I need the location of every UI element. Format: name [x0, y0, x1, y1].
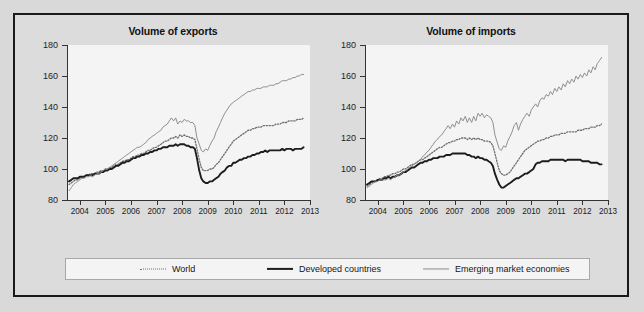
legend-label-emerging-market-economies: Emerging market economies [455, 264, 570, 274]
x-tick-label: 2010 [522, 207, 540, 216]
x-tick [506, 200, 507, 205]
x-tick [233, 200, 234, 205]
x-tick-label: 2009 [497, 207, 515, 216]
x-tick-label: 2013 [301, 207, 319, 216]
y-tick [62, 45, 67, 46]
legend-item-developed-countries[interactable]: Developed countries [267, 259, 381, 279]
x-tick [208, 200, 209, 205]
legend-item-world[interactable]: World [140, 259, 195, 279]
series-lines-imports [365, 45, 608, 200]
y-tick [360, 76, 365, 77]
y-tick-label: 100 [25, 165, 58, 174]
x-tick-label: 2011 [250, 207, 268, 216]
x-tick [403, 200, 404, 205]
y-tick-label: 160 [25, 72, 58, 81]
x-tick [429, 200, 430, 205]
x-tick-label: 2007 [445, 207, 463, 216]
y-tick-label: 180 [323, 41, 356, 50]
y-axis-exports [67, 45, 68, 201]
y-tick [62, 200, 67, 201]
x-tick-label: 2011 [548, 207, 566, 216]
legend-swatch-developed-icon [267, 264, 293, 274]
y-tick [360, 138, 365, 139]
x-tick [131, 200, 132, 205]
x-tick-label: 2008 [471, 207, 489, 216]
x-tick-label: 2005 [394, 207, 412, 216]
series-developed-countries [69, 144, 304, 183]
series-lines-exports [67, 45, 310, 200]
legend-item-emerging-market-economies[interactable]: Emerging market economies [423, 259, 570, 279]
x-tick-label: 2012 [275, 207, 293, 216]
x-tick [480, 200, 481, 205]
x-tick-label: 2010 [224, 207, 242, 216]
y-tick [62, 76, 67, 77]
x-tick [608, 200, 609, 205]
x-axis-imports [365, 200, 609, 201]
x-tick [182, 200, 183, 205]
figure-container: Volume of exports 8010012014016018020042… [13, 13, 629, 297]
y-tick [360, 45, 365, 46]
series-emerging-market-economies [69, 74, 304, 190]
y-tick [62, 138, 67, 139]
x-tick [105, 200, 106, 205]
y-axis-imports [365, 45, 366, 201]
x-tick [259, 200, 260, 205]
x-tick-label: 2007 [147, 207, 165, 216]
legend-swatch-world-icon [140, 264, 166, 274]
y-tick-label: 80 [25, 196, 58, 205]
x-tick [531, 200, 532, 205]
y-tick-label: 140 [25, 103, 58, 112]
y-tick-label: 80 [323, 196, 356, 205]
y-tick [360, 200, 365, 201]
x-tick [157, 200, 158, 205]
x-axis-exports [67, 200, 311, 201]
x-tick-label: 2006 [420, 207, 438, 216]
legend-label-developed-countries: Developed countries [299, 264, 381, 274]
x-tick [310, 200, 311, 205]
x-tick-label: 2009 [199, 207, 217, 216]
y-tick-label: 120 [323, 134, 356, 143]
chart-title-imports: Volume of imports [323, 25, 619, 37]
x-tick [455, 200, 456, 205]
x-tick-label: 2005 [96, 207, 114, 216]
y-tick [360, 169, 365, 170]
x-tick-label: 2004 [369, 207, 387, 216]
chart-panel-imports: Volume of imports 8010012014016018020042… [323, 19, 619, 231]
chart-legend: World Developed countries Emerging marke… [65, 258, 590, 280]
x-tick-label: 2006 [122, 207, 140, 216]
y-tick [62, 107, 67, 108]
x-tick-label: 2008 [173, 207, 191, 216]
y-tick [360, 107, 365, 108]
x-tick [557, 200, 558, 205]
series-emerging-market-economies [367, 57, 602, 187]
y-tick-label: 100 [323, 165, 356, 174]
legend-label-world: World [172, 264, 195, 274]
x-tick [582, 200, 583, 205]
y-tick-label: 180 [25, 41, 58, 50]
series-developed-countries [367, 154, 602, 188]
plot-area-imports [365, 45, 608, 200]
plot-area-exports [67, 45, 310, 200]
y-tick [62, 169, 67, 170]
chart-title-exports: Volume of exports [25, 25, 321, 37]
chart-panel-exports: Volume of exports 8010012014016018020042… [25, 19, 321, 231]
y-tick-label: 140 [323, 103, 356, 112]
y-tick-label: 120 [25, 134, 58, 143]
y-tick-label: 160 [323, 72, 356, 81]
x-tick-label: 2013 [599, 207, 617, 216]
legend-swatch-emerging-icon [423, 264, 449, 274]
x-tick [378, 200, 379, 205]
x-tick [284, 200, 285, 205]
x-tick [80, 200, 81, 205]
x-tick-label: 2004 [71, 207, 89, 216]
series-world [367, 124, 602, 186]
x-tick-label: 2012 [573, 207, 591, 216]
